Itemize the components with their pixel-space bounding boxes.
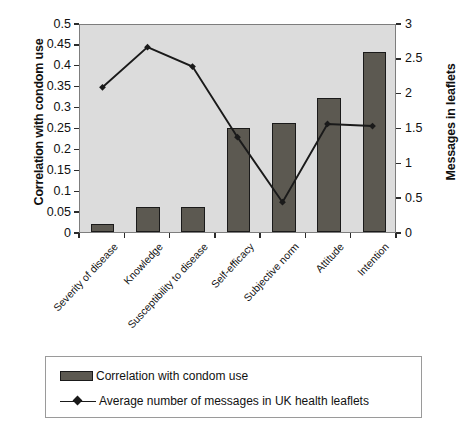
y-left-tick-label-8: 0.4 — [23, 59, 71, 72]
y-left-tick-4 — [74, 149, 79, 150]
x-tick-4 — [259, 233, 260, 238]
legend-entry-bar: Correlation with condom use — [60, 368, 248, 384]
y-left-tick-9 — [74, 44, 79, 45]
y-left-tick-2 — [74, 191, 79, 192]
y-left-tick-7 — [74, 86, 79, 87]
y-left-tick-label-5: 0.25 — [23, 122, 71, 135]
y-right-tick-label-5: 2.5 — [405, 52, 422, 65]
line-marker-6 — [369, 123, 376, 130]
x-tick-5 — [305, 233, 306, 238]
legend-line-diamond-icon — [60, 396, 96, 407]
x-tick-3 — [214, 233, 215, 238]
y-right-tick-4 — [396, 93, 401, 94]
y-right-tick-label-2: 1 — [405, 157, 412, 170]
y-right-tick-label-0: 0 — [405, 227, 412, 240]
line-path — [102, 47, 372, 202]
y-right-tick-6 — [396, 23, 401, 24]
y-right-tick-0 — [396, 232, 401, 233]
y-axis-title-right: Messages in leaflets — [444, 15, 458, 230]
x-tick-0 — [78, 233, 79, 238]
y-left-tick-10 — [74, 23, 79, 24]
legend-label-line: Average number of messages in UK health … — [99, 394, 369, 408]
y-left-tick-label-1: 0.05 — [23, 206, 71, 219]
y-right-tick-label-1: 0.5 — [405, 192, 422, 205]
y-left-tick-label-2: 0.1 — [23, 185, 71, 198]
y-left-tick-label-7: 0.35 — [23, 80, 71, 93]
y-left-tick-label-6: 0.3 — [23, 101, 71, 114]
y-right-tick-label-6: 3 — [405, 18, 412, 31]
y-right-tick-label-3: 1.5 — [405, 122, 422, 135]
x-tick-1 — [124, 233, 125, 238]
y-right-tick-3 — [396, 128, 401, 129]
y-left-tick-label-10: 0.5 — [23, 18, 71, 31]
y-left-tick-label-4: 0.2 — [23, 143, 71, 156]
chart-legend: Correlation with condom use Average numb… — [45, 356, 422, 418]
legend-entry-line: Average number of messages in UK health … — [60, 393, 369, 409]
y-left-tick-label-0: 0 — [23, 227, 71, 240]
y-left-tick-3 — [74, 170, 79, 171]
y-left-tick-6 — [74, 107, 79, 108]
legend-label-bar: Correlation with condom use — [96, 369, 248, 383]
y-right-tick-label-4: 2 — [405, 87, 412, 100]
y-right-tick-2 — [396, 163, 401, 164]
x-tick-2 — [169, 233, 170, 238]
y-right-tick-5 — [396, 58, 401, 59]
x-tick-6 — [350, 233, 351, 238]
plot-area — [79, 24, 396, 233]
y-right-tick-1 — [396, 197, 401, 198]
x-tick-7 — [395, 233, 396, 238]
y-left-tick-8 — [74, 65, 79, 66]
y-left-tick-label-3: 0.15 — [23, 164, 71, 177]
y-left-tick-1 — [74, 211, 79, 212]
y-left-tick-5 — [74, 128, 79, 129]
line-series-layer — [80, 25, 395, 233]
y-left-tick-label-9: 0.45 — [23, 38, 71, 51]
chart-figure: Correlation with condom use Messages in … — [0, 0, 466, 432]
legend-bar-swatch-icon — [60, 371, 93, 381]
